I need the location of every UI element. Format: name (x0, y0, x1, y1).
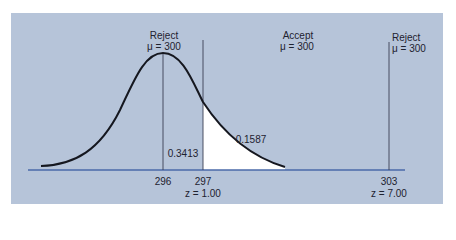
area-tail-label: 0.1587 (233, 134, 269, 145)
tick-297: 297 (191, 176, 215, 187)
z-297: z = 1.00 (180, 188, 226, 199)
right-region-title: Reject (392, 32, 426, 43)
left-region-mu: μ = 300 (144, 41, 184, 52)
tick-296: 296 (151, 176, 175, 187)
middle-region-mu: μ = 300 (277, 41, 317, 52)
area-center-label: 0.3413 (166, 148, 200, 159)
middle-region-title: Accept (280, 30, 316, 41)
left-region-title: Reject (148, 30, 180, 41)
right-region-mu: μ = 300 (392, 43, 434, 54)
z-303: z = 7.00 (366, 188, 412, 199)
tick-303: 303 (377, 176, 401, 187)
